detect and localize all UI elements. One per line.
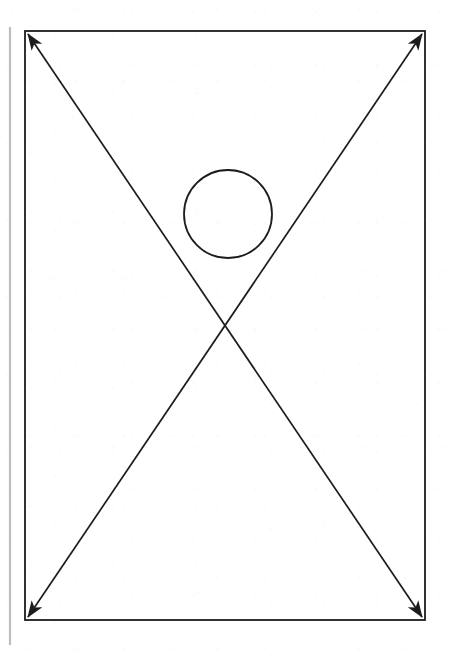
figure-svg: [0, 0, 449, 650]
circle-shape: [184, 170, 272, 258]
drawing-canvas: [0, 0, 449, 650]
